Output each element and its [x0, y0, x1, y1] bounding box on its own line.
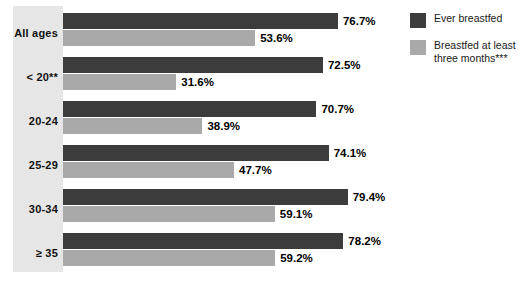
category-label: < 20**	[0, 66, 58, 88]
legend-item[interactable]: Breastfed at least three months***	[410, 39, 530, 65]
bar-ever-breastfed	[63, 57, 323, 73]
legend-swatch-icon	[410, 40, 426, 55]
legend-label: Ever breastfed	[434, 12, 530, 25]
bar-ever-breastfed	[63, 189, 348, 205]
bar-group: 30-3479.4%59.1%	[0, 187, 400, 231]
bar-ever-breastfed	[63, 101, 316, 117]
bar-breastfed-three-months	[63, 206, 275, 222]
bar-group: All ages76.7%53.6%	[0, 11, 400, 55]
bar-value-label: 76.7%	[338, 13, 376, 29]
bar-value-label: 78.2%	[343, 233, 381, 249]
bar-breastfed-three-months	[63, 118, 202, 134]
legend-item[interactable]: Ever breastfed	[410, 12, 530, 28]
bar-group: 25-2974.1%47.7%	[0, 143, 400, 187]
legend-swatch-icon	[410, 13, 426, 28]
bar-breastfed-three-months	[63, 74, 176, 90]
category-label: All ages	[0, 22, 58, 44]
chart-legend: Ever breastfedBreastfed at least three m…	[410, 12, 530, 76]
legend-label: Breastfed at least three months***	[434, 39, 530, 65]
category-label: 30-34	[0, 198, 58, 220]
bar-ever-breastfed	[63, 145, 329, 161]
bar-ever-breastfed	[63, 233, 343, 249]
bar-group: 20-2470.7%38.9%	[0, 99, 400, 143]
bar-value-label: 70.7%	[316, 101, 354, 117]
bar-value-label: 72.5%	[323, 57, 361, 73]
bar-value-label: 53.6%	[255, 30, 293, 46]
bar-ever-breastfed	[63, 13, 338, 29]
bar-value-label: 79.4%	[348, 189, 386, 205]
bar-group: < 20**72.5%31.6%	[0, 55, 400, 99]
category-label: ≥ 35	[0, 242, 58, 264]
bar-value-label: 59.1%	[275, 206, 313, 222]
bar-breastfed-three-months	[63, 162, 234, 178]
bar-value-label: 47.7%	[234, 162, 272, 178]
bar-value-label: 38.9%	[202, 118, 240, 134]
bar-breastfed-three-months	[63, 250, 275, 266]
bar-value-label: 31.6%	[176, 74, 214, 90]
bar-group: ≥ 3578.2%59.2%	[0, 231, 400, 275]
category-label: 25-29	[0, 154, 58, 176]
plot-area: All ages76.7%53.6%< 20**72.5%31.6%20-247…	[0, 0, 400, 284]
bar-breastfed-three-months	[63, 30, 255, 46]
category-label: 20-24	[0, 110, 58, 132]
bar-chart: All ages76.7%53.6%< 20**72.5%31.6%20-247…	[0, 0, 530, 284]
bar-value-label: 74.1%	[329, 145, 367, 161]
bar-value-label: 59.2%	[275, 250, 313, 266]
